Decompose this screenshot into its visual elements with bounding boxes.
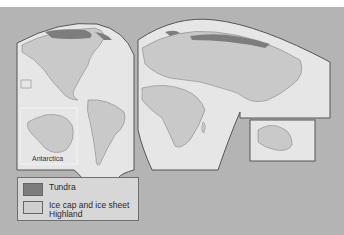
ice-highland-swatch	[23, 201, 43, 214]
map-legend: Tundra Ice cap and ice sheet Highland	[17, 177, 139, 221]
legend-label: Highland	[49, 210, 129, 219]
legend-item-ice-highland: Ice cap and ice sheet Highland	[23, 201, 129, 219]
tundra-north-america	[45, 29, 92, 39]
legend-item-tundra: Tundra	[23, 183, 76, 196]
legend-label: Tundra	[49, 183, 76, 192]
tundra-swatch	[23, 183, 43, 196]
antarctica-label: Antarctica	[32, 155, 63, 162]
